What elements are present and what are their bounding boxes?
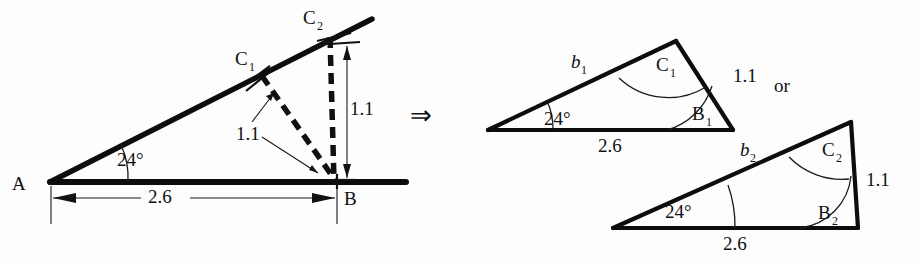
label-point-c1: C 1 — [235, 48, 255, 74]
triangle-2-vertex-c-letter: C — [822, 139, 835, 160]
label-side-a2-construction: 1.1 — [350, 98, 374, 119]
geometry-figure: A B C 1 C 2 24° 2.6 1.1 1.1 ⇒ b 1 — [0, 0, 921, 266]
triangle-2-label-vertex-b: B 2 — [818, 202, 838, 228]
label-point-c1-letter: C — [235, 48, 248, 69]
triangle-1-angle-arc-c — [619, 78, 706, 98]
triangle-2-side-b-letter: b — [740, 139, 750, 160]
triangle-1-vertex-b-subscript: 1 — [706, 115, 712, 129]
leader-arrowhead-to-c1 — [266, 93, 274, 101]
triangle-1-label-b-side: b 1 — [571, 51, 587, 77]
dimension-arrowhead-down — [343, 164, 351, 178]
triangle-1-side-b-subscript: 1 — [581, 63, 587, 77]
triangle-2-base-label: 2.6 — [723, 233, 747, 254]
triangle-2-side-a-label: 1.1 — [866, 169, 890, 190]
label-side-a1-construction: 1.1 — [236, 123, 260, 144]
dimension-2-6 — [51, 186, 337, 224]
triangle-2-angle-arc-a — [728, 185, 735, 228]
label-point-c2-subscript: 2 — [317, 19, 323, 33]
triangle-1-base-label: 2.6 — [598, 135, 622, 156]
triangle-1-side-a-label: 1.1 — [733, 65, 757, 86]
triangle-1-label-vertex-c: C 1 — [656, 54, 676, 80]
triangle-2-vertex-b-subscript: 2 — [832, 214, 838, 228]
triangle-2-label-b-side: b 2 — [740, 139, 756, 165]
dimension-arrowhead-up — [343, 46, 351, 60]
triangle-2-vertex-b-letter: B — [818, 202, 831, 223]
dashed-segment-c2-b — [330, 37, 334, 180]
label-vertex-b: B — [344, 188, 357, 209]
implies-arrow-icon: ⇒ — [410, 101, 432, 130]
label-point-c2: C 2 — [303, 7, 323, 33]
triangle-1-vertex-c-subscript: 1 — [670, 66, 676, 80]
figure-canvas: A B C 1 C 2 24° 2.6 1.1 1.1 ⇒ b 1 — [0, 0, 921, 266]
or-separator-text: or — [774, 75, 791, 96]
dim-arrowhead-left — [53, 193, 76, 203]
triangle-2-vertex-c-subscript: 2 — [836, 151, 842, 165]
triangle-2-label-vertex-c: C 2 — [822, 139, 842, 165]
label-angle-a-construction: 24° — [117, 149, 144, 170]
label-base-2-6-construction: 2.6 — [148, 186, 172, 207]
label-vertex-a: A — [12, 173, 26, 194]
triangle-1-side-b — [488, 41, 676, 130]
leader-arrowhead-to-b — [309, 165, 318, 173]
construction-diagram: A B C 1 C 2 24° 2.6 1.1 1.1 — [12, 7, 406, 224]
triangle-2: b 2 C 2 B 2 24° 2.6 1.1 — [613, 122, 890, 254]
triangle-1: b 1 C 1 B 1 24° 2.6 1.1 — [488, 41, 757, 156]
triangle-1-vertex-b-letter: B — [692, 103, 705, 124]
dim-arrowhead-right — [312, 193, 335, 203]
triangle-2-side-a — [851, 122, 858, 228]
triangle-1-angle-a-label: 24° — [544, 108, 571, 129]
dashed-segment-c1-b — [262, 76, 335, 180]
triangle-1-side-b-letter: b — [571, 51, 581, 72]
label-point-c1-subscript: 1 — [249, 60, 255, 74]
triangle-1-vertex-c-letter: C — [656, 54, 669, 75]
label-point-c2-letter: C — [303, 7, 316, 28]
extension-tick-top — [330, 42, 360, 44]
triangle-2-side-b-subscript: 2 — [750, 151, 756, 165]
triangle-2-angle-a-label: 24° — [665, 201, 692, 222]
triangle-1-label-vertex-b: B 1 — [692, 103, 712, 129]
